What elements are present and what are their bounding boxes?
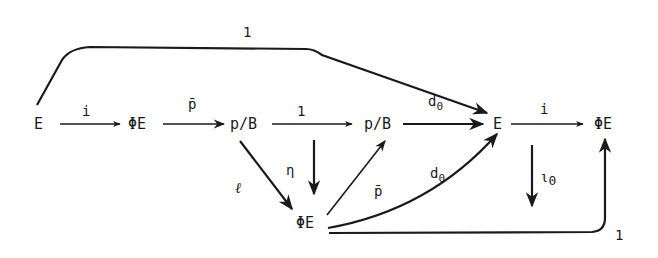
label-eta: η — [286, 162, 294, 178]
arrow-bottom-identity — [329, 139, 605, 233]
node-PhiE-2: ΦE — [594, 115, 612, 133]
label-pbar-2: p̄ — [374, 183, 382, 199]
label-i-2: i — [540, 101, 548, 117]
label-pbar-1: p̄ — [188, 96, 196, 112]
label-i-1: i — [82, 103, 90, 119]
node-PhiE-bottom: ΦE — [296, 214, 314, 232]
arrow-ell — [240, 141, 292, 209]
arrow-top-identity — [37, 47, 487, 113]
commutative-diagram: E ΦE p/B p/B E ΦE ΦE 1 i p̄ 1 d0 i ℓ η p… — [0, 0, 658, 258]
arrow-pbar-2 — [327, 141, 385, 215]
node-PhiE-1: ΦE — [128, 115, 146, 133]
label-ell: ℓ — [235, 179, 241, 197]
node-pB-1: p/B — [230, 115, 257, 133]
label-identity-pB: 1 — [297, 103, 305, 119]
label-bottom-identity: 1 — [615, 227, 623, 243]
node-E-1: E — [34, 115, 43, 133]
node-E-2: E — [493, 115, 502, 133]
node-pB-2: p/B — [364, 115, 391, 133]
label-iota0: ι0 — [540, 169, 556, 188]
label-d0-bottom: d0 — [430, 165, 445, 185]
label-top-identity: 1 — [243, 24, 251, 40]
